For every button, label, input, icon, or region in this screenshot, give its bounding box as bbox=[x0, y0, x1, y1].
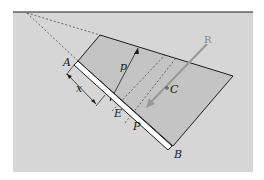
label-B: B bbox=[173, 148, 182, 161]
label-p: p bbox=[120, 60, 127, 73]
label-P: P bbox=[132, 120, 141, 133]
label-A: A bbox=[62, 56, 71, 69]
label-x: x bbox=[76, 82, 83, 95]
hydrostatic-diagram: A B E P C R x p bbox=[0, 0, 264, 180]
label-C: C bbox=[170, 83, 179, 96]
label-R: R bbox=[204, 34, 212, 45]
label-E: E bbox=[113, 107, 122, 120]
